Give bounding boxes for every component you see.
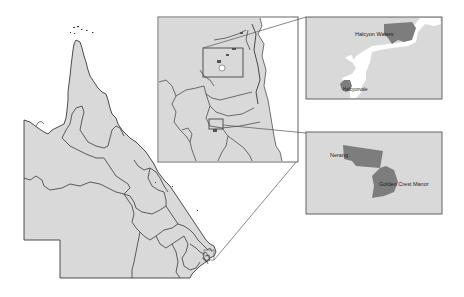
bottom-inset-frame <box>306 132 442 214</box>
gulf-coast <box>36 121 44 126</box>
top-detail-inset: Halcyon Waters Halcyonvale <box>306 17 442 99</box>
label-golden-crest-manor: Golden Crest Manor <box>379 181 429 187</box>
bottom-detail-inset: Nerang Golden Crest Manor <box>306 132 442 214</box>
label-halcyonvale: Halcyonvale <box>343 87 368 92</box>
locator-map: Halcyon Waters Halcyonvale Nerang Golden… <box>0 0 464 297</box>
connector-lines <box>214 161 297 260</box>
label-halcyon-waters: Halcyon Waters <box>355 31 394 37</box>
bay-water <box>219 65 225 71</box>
regional-inset <box>158 17 298 162</box>
label-nerang: Nerang <box>330 152 348 158</box>
top-inset-frame <box>306 17 442 99</box>
